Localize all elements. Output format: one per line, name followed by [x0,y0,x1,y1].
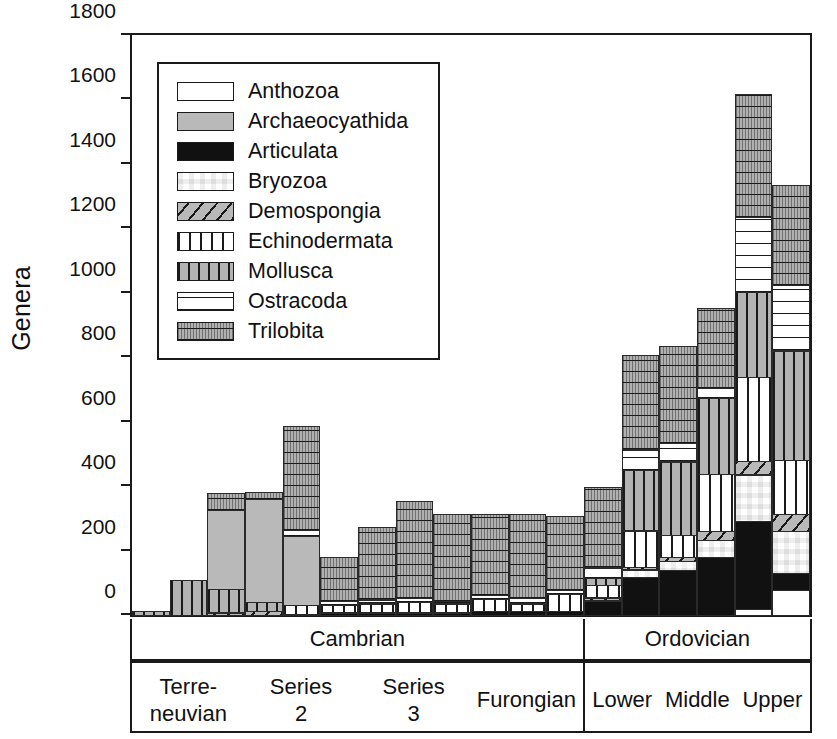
bar-segment-articulata [584,601,622,616]
bar-segment-articulata [772,573,810,591]
stage-label-line: Lower [592,687,652,714]
period-label: Ordovician [645,626,750,652]
legend-item-ostracoda[interactable]: Ostracoda [159,286,438,316]
legend-label: Demospongia [248,199,381,224]
stage-cell: Furongian [470,680,583,714]
bar-segment-mollusca [622,470,660,532]
legend-swatch-demospongia [177,202,234,221]
bar-segment-trilobita [735,94,773,217]
bar-segment-echinodermata [471,599,509,612]
bar-Terreneuvian-1[interactable] [132,611,170,615]
bar-Middle-1[interactable] [659,346,697,615]
bar-segment-articulata [509,611,547,616]
bar-Series3-3[interactable] [433,514,471,615]
stage-cell: Terre-neuvian [132,667,245,728]
bar-segment-ostracoda [735,217,773,293]
bar-segment-archaeocyathida [245,499,283,603]
y-axis-tick [121,355,132,357]
bar-segment-trilobita [396,501,434,598]
y-axis-tick-label: 1400 [46,128,116,152]
stage-label-line: Upper [742,687,802,714]
stage-label-line: Series [270,674,332,701]
bar-segment-mollusca [170,580,208,616]
period-cell-cambrian: Cambrian [132,619,583,659]
period-label: Cambrian [310,626,405,652]
legend-item-bryozoa[interactable]: Bryozoa [159,166,438,196]
legend-item-mollusca[interactable]: Mollusca [159,256,438,286]
bar-Upper-2[interactable] [772,185,810,615]
bar-Terreneuvian-2[interactable] [170,580,208,615]
bar-Terreneuvian-3[interactable] [207,493,245,615]
legend-label: Trilobita [248,319,324,344]
legend-item-anthozoa[interactable]: Anthozoa [159,76,438,106]
bar-segment-trilobita [358,527,396,600]
bar-segment-articulata [697,557,735,615]
bar-segment-ostracoda [772,285,810,352]
stage-label-line: Furongian [477,687,576,714]
bar-segment-echinodermata [584,585,622,598]
y-axis-tick [121,162,132,164]
bar-Lower-1[interactable] [584,487,622,615]
y-axis-tick [121,226,132,228]
legend-item-demospongia[interactable]: Demospongia [159,196,438,226]
bar-Furongian-3[interactable] [546,516,584,615]
bar-segment-echinodermata [735,377,773,461]
bar-Furongian-1[interactable] [471,514,509,615]
bar-segment-ostracoda [659,443,697,462]
bar-Series2-2[interactable] [283,426,321,615]
bar-segment-articulata [358,613,396,616]
bar-Middle-2[interactable] [697,308,735,615]
bar-segment-ostracoda [622,450,660,471]
stage-row: Terre-neuvianSeries2Series3FurongianLowe… [130,661,812,733]
bar-segment-mollusca [697,398,735,474]
bar-segment-anthozoa [735,609,773,615]
stage-group-ordovician: LowerMiddleUpper [583,663,810,731]
legend-item-echinodermata[interactable]: Echinodermata [159,226,438,256]
legend-item-trilobita[interactable]: Trilobita [159,316,438,346]
bar-Series3-1[interactable] [358,527,396,615]
y-axis-tick [121,549,132,551]
y-axis-tick-label: 400 [46,450,116,474]
bar-segment-mollusca [772,351,810,461]
bar-segment-archaeocyathida [207,510,245,589]
stage-group-cambrian: Terre-neuvianSeries2Series3Furongian [132,663,583,731]
bar-segment-articulata [735,521,773,610]
bar-segment-trilobita [471,514,509,595]
y-axis-tick [121,291,132,293]
y-axis-tick-label: 1200 [46,192,116,216]
bar-segment-echinodermata [546,594,584,612]
legend-swatch-echinodermata [177,232,234,251]
period-row: CambrianOrdovician [130,619,812,661]
bar-segment-trilobita [207,493,245,511]
bar-segment-demospongia [207,613,245,616]
bar-segment-articulata [659,570,697,615]
bar-segment-archaeocyathida [283,536,321,606]
y-axis-tick-label: 800 [46,321,116,345]
bar-segment-mollusca [132,611,170,616]
bar-Series2-1[interactable] [245,492,283,615]
legend-swatch-trilobita [177,322,234,341]
bar-Series2-3[interactable] [320,557,358,615]
stage-label-line: neuvian [150,701,227,728]
bar-Series3-2[interactable] [396,501,434,615]
legend-label: Mollusca [248,259,333,284]
bar-Upper-1[interactable] [735,94,773,615]
legend-item-articulata[interactable]: Articulata [159,136,438,166]
stage-label-line: Series [383,674,445,701]
chart-figure: Genera 020040060080010001200140016001800… [0,0,837,739]
stage-label-line: 2 [295,701,307,728]
bar-segment-bryozoa [772,531,810,573]
period-cell-ordovician: Ordovician [583,619,810,659]
legend-item-archaeocyathida[interactable]: Archaeocyathida [159,106,438,136]
bar-segment-trilobita [772,185,810,286]
legend-swatch-ostracoda [177,292,234,311]
stage-cell: Series2 [245,667,358,728]
stage-cell: Series3 [357,667,470,728]
bar-Furongian-2[interactable] [509,514,547,615]
bar-segment-echinodermata [772,460,810,515]
bar-Lower-2[interactable] [622,355,660,615]
y-axis-tick [121,33,132,35]
stage-cell: Middle [660,680,735,714]
bar-segment-demospongia [735,461,773,476]
stage-cell: Upper [735,680,810,714]
